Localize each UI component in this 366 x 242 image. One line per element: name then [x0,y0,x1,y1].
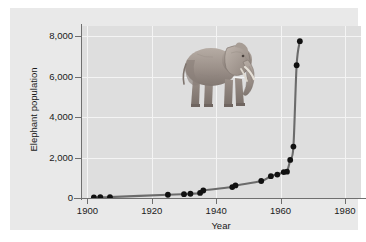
data-point [268,173,274,179]
y-axis-line [81,24,82,200]
data-point [200,188,206,194]
data-point [294,62,300,68]
y-axis-tick [75,36,81,37]
y-axis-tick-label: 6,000 [13,72,73,82]
y-axis-tick-label: 2,000 [13,153,73,163]
data-point [291,144,297,150]
data-point [181,191,187,197]
chart-canvas: 02,0004,0006,0008,000 190019201940196019… [10,8,358,230]
x-axis-tick-label: 1920 [132,206,172,216]
data-point [258,178,264,184]
x-axis-tick [345,198,346,204]
data-point [274,172,280,178]
data-point [297,38,303,44]
data-point [284,169,290,175]
y-axis-tick-label: 4,000 [13,112,73,122]
x-axis-title: Year [81,220,361,231]
x-axis-tick-label: 1980 [325,206,365,216]
x-axis-tick-label: 1940 [196,206,236,216]
y-axis-tick-label: 8,000 [13,31,73,41]
y-axis-tick [75,117,81,118]
data-point [165,192,171,198]
y-axis-tick-label: 0 [13,193,73,203]
y-axis-tick [75,158,81,159]
y-axis-title: Elephant population [28,40,39,180]
data-point [233,183,239,189]
x-axis-tick [216,198,217,204]
data-series-elephant-population [81,26,361,198]
x-axis-tick [152,198,153,204]
x-axis-tick [281,198,282,204]
plot-area [81,26,361,198]
data-point [287,157,293,163]
x-axis-tick-label: 1900 [67,206,107,216]
x-axis-tick-label: 1960 [261,206,301,216]
y-axis-tick [75,198,81,199]
x-axis-tick [87,198,88,204]
x-axis-line [74,198,366,199]
data-point [188,191,194,197]
y-axis-tick [75,77,81,78]
trend-line [94,41,300,197]
